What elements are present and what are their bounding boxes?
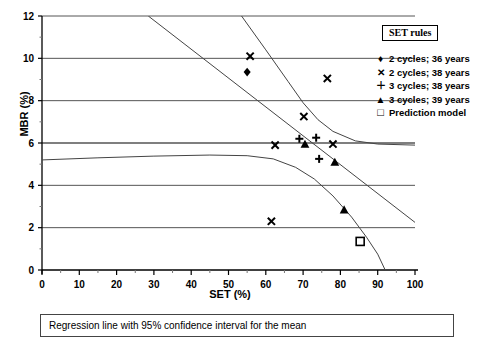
legend-title-box: SET rules	[382, 25, 438, 41]
data-point-x	[268, 218, 275, 225]
y-axis-title: MBR (%)	[18, 84, 30, 144]
data-point-diamond	[244, 68, 251, 77]
data-point-triangle	[330, 158, 339, 166]
figure-caption: Regression line with 95% confidence inte…	[40, 314, 454, 337]
legend-marker-icon: ✕	[374, 66, 387, 80]
y-tick-label: 0	[28, 265, 34, 276]
legend-item-label: 2 cycles; 38 years	[389, 66, 470, 80]
y-tick-label: 12	[23, 11, 35, 22]
data-point-triangle	[340, 205, 349, 213]
data-point-x	[300, 113, 307, 120]
x-tick-label: 20	[111, 279, 123, 290]
x-tick-label: 100	[407, 279, 424, 290]
y-tick-label: 10	[23, 53, 35, 64]
legend-item-label: 3 cycles; 39 years	[389, 93, 470, 107]
x-tick-label: 90	[372, 279, 384, 290]
legend-item: ▲3 cycles; 39 years	[374, 93, 470, 107]
legend: ♦2 cycles; 36 years✕2 cycles; 38 years＋3…	[374, 52, 470, 120]
legend-item: ＋3 cycles; 38 years	[374, 79, 470, 93]
y-tick-label: 4	[28, 180, 34, 191]
data-point-square-open	[356, 237, 364, 245]
chart-svg: 0246810120102030405060708090100	[0, 0, 494, 300]
legend-marker-icon: ♦	[374, 52, 387, 66]
legend-item: ✕2 cycles; 38 years	[374, 66, 470, 80]
x-tick-label: 10	[74, 279, 86, 290]
data-point-plus	[315, 155, 323, 163]
legend-marker-icon: □	[374, 106, 387, 120]
chart-figure: 0246810120102030405060708090100 MBR (%) …	[0, 0, 494, 346]
legend-item-label: Prediction model	[389, 106, 466, 120]
data-point-x	[324, 75, 331, 82]
x-tick-label: 0	[39, 279, 45, 290]
data-point-plus	[295, 135, 303, 143]
legend-marker-icon: ▲	[374, 93, 387, 107]
y-tick-label: 2	[28, 222, 34, 233]
lower-confidence-limit	[42, 155, 385, 270]
legend-marker-icon: ＋	[374, 79, 387, 93]
x-axis-title: SET (%)	[150, 288, 310, 300]
chart-plot-area: 0246810120102030405060708090100	[0, 0, 494, 300]
data-point-plus	[312, 134, 320, 142]
legend-item: □Prediction model	[374, 106, 470, 120]
legend-item-label: 2 cycles; 36 years	[389, 52, 470, 66]
legend-item: ♦2 cycles; 36 years	[374, 52, 470, 66]
legend-item-label: 3 cycles; 38 years	[389, 79, 470, 93]
data-point-x	[329, 140, 336, 147]
x-tick-label: 80	[335, 279, 347, 290]
